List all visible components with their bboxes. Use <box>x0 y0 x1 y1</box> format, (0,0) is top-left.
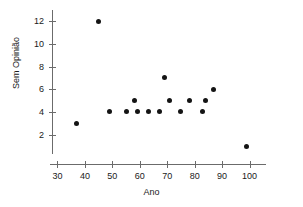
data-point <box>187 98 192 103</box>
x-tick-mark <box>222 161 223 168</box>
x-tick-mark <box>195 161 196 168</box>
x-tick-label: 60 <box>135 171 145 181</box>
data-point <box>124 109 129 114</box>
data-point <box>74 121 79 126</box>
data-point <box>132 98 137 103</box>
y-tick-label: 4 <box>39 107 44 117</box>
y-tick-mark <box>49 21 56 22</box>
data-point <box>157 109 162 114</box>
data-point <box>244 144 249 149</box>
x-tick-mark <box>250 161 251 168</box>
y-tick-label: 8 <box>39 62 44 72</box>
x-axis-line <box>50 164 266 165</box>
x-tick-mark <box>112 161 113 168</box>
scatter-chart: 30405060708090100 24681012 Ano Sem Opini… <box>0 0 303 207</box>
data-point <box>200 109 205 114</box>
data-point <box>203 98 208 103</box>
y-tick-label: 2 <box>39 130 44 140</box>
x-tick-label: 70 <box>162 171 172 181</box>
x-tick-label: 90 <box>217 171 227 181</box>
x-tick-label: 40 <box>80 171 90 181</box>
y-tick-mark <box>49 112 56 113</box>
x-axis-title: Ano <box>0 187 303 197</box>
y-tick-mark <box>49 135 56 136</box>
x-tick-label: 30 <box>52 171 62 181</box>
data-point <box>135 109 140 114</box>
data-point <box>178 109 183 114</box>
y-tick-label: 12 <box>34 16 44 26</box>
data-point <box>211 87 216 92</box>
y-tick-mark <box>49 67 56 68</box>
x-tick-mark <box>85 161 86 168</box>
x-tick-mark <box>167 161 168 168</box>
x-tick-mark <box>57 161 58 168</box>
data-point <box>107 109 112 114</box>
y-tick-mark <box>49 89 56 90</box>
y-axis-line <box>52 10 53 154</box>
x-tick-mark <box>140 161 141 168</box>
x-tick-label: 100 <box>242 171 257 181</box>
data-point <box>162 75 167 80</box>
y-tick-mark <box>49 44 56 45</box>
y-tick-label: 6 <box>39 84 44 94</box>
x-tick-label: 80 <box>190 171 200 181</box>
y-axis-title: Sem Opinião <box>11 23 21 103</box>
x-tick-label: 50 <box>107 171 117 181</box>
data-point <box>96 19 101 24</box>
y-tick-label: 10 <box>34 39 44 49</box>
data-point <box>146 109 151 114</box>
data-point <box>167 98 172 103</box>
